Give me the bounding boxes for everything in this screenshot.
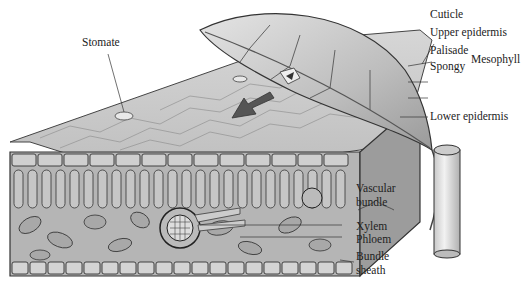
xylem-label: Xylem	[356, 220, 387, 233]
stomate-icon	[115, 112, 133, 120]
upper-epidermis-label: Upper epidermis	[430, 26, 507, 39]
phloem-label: Phloem	[356, 233, 391, 246]
spongy-label: Spongy	[430, 60, 465, 73]
stomate-label: Stomate	[82, 36, 120, 49]
leaf-diagram: Stomate Cuticle Upper epidermis Palisade…	[0, 0, 523, 290]
bundle-sheath-label-1: Bundle	[356, 250, 389, 263]
palisade-label: Palisade	[430, 44, 468, 57]
lower-epidermis-label: Lower epidermis	[430, 110, 508, 123]
bundle-sheath-label-2: sheath	[356, 264, 385, 277]
stem-icon	[434, 145, 460, 155]
cuticle-label: Cuticle	[430, 8, 463, 21]
mesophyll-label: Mesophyll	[471, 53, 520, 66]
vascular-bundle-label-1: Vascular	[356, 182, 396, 195]
vascular-bundle-label-2: bundle	[356, 196, 387, 209]
